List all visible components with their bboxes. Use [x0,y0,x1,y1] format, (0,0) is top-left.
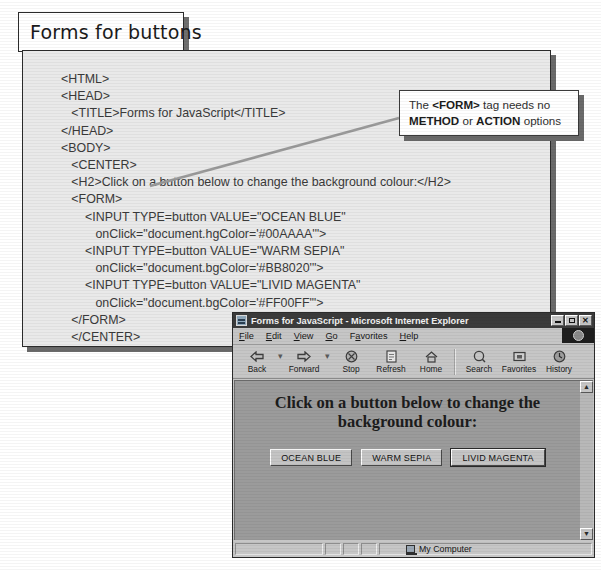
toolbar-label-refresh: Refresh [376,364,405,374]
code-line: <H2>Click on a button below to change th… [61,174,451,191]
toolbar-label-back: Back [248,364,267,374]
page-button-row: OCEAN BLUE WARM SEPIA LIVID MAGENTA [235,449,580,466]
browser-window: Forms for JavaScript - Microsoft Interne… [232,312,595,558]
toolbar-button-favorites[interactable]: Favorites [499,350,539,374]
code-listing: <HTML><HEAD> <TITLE>Forms for JavaScript… [61,71,451,347]
home-icon [425,350,438,364]
toolbar-label-search: Search [466,364,493,374]
search-icon [473,350,486,364]
callout-line-2: METHOD or ACTION options [409,113,570,129]
menu-label-favorites: vorites [360,331,387,341]
menu-item-favorites[interactable]: Favorites [350,331,388,341]
callout-line-1: The <FORM> tag needs no [409,97,570,113]
menu-accel-go: G [325,331,332,341]
toolbar-label-favorites: Favorites [502,364,536,374]
ie-document-icon [236,315,247,326]
page-heading: Click on a button below to change the ba… [235,393,580,431]
toolbar-button-forward[interactable]: Forward [284,350,324,374]
toolbar-button-home[interactable]: Home [411,350,451,374]
toolbar-button-stop[interactable]: Stop [331,350,371,374]
page-button-warm-sepia[interactable]: WARM SEPIA [361,449,442,466]
scrollbar-up-arrow-icon[interactable]: ▲ [580,381,593,393]
code-line: onClick="document.bgColor='#FF00FF'"> [61,295,451,312]
callout-options-text: options [520,114,561,127]
close-icon: ✕ [582,316,589,325]
refresh-icon [386,350,397,364]
menu-item-edit[interactable]: Edit [266,331,282,341]
figure-title-banner: Forms for buttons [18,12,184,52]
menu-item-view[interactable]: View [294,331,314,341]
menu-label-edit: dit [272,331,282,341]
titlebar-button-group: ✕ [551,315,592,326]
code-line: <HTML> [61,71,451,88]
browser-statusbar: My Computer [233,541,594,557]
toolbar-button-search[interactable]: Search [459,350,499,374]
code-line: <FORM> [61,191,451,208]
toolbar-button-refresh[interactable]: Refresh [371,350,411,374]
browser-viewport: Click on a button below to change the ba… [234,380,593,540]
toolbar-button-history[interactable]: History [539,350,579,374]
globe-icon [573,330,584,341]
statusbar-security-zone: My Computer [379,543,592,555]
code-line: <HEAD> [61,88,451,105]
code-line: onClick="document.bgColor='#BB8020'"> [61,260,451,277]
code-line: <CENTER> [61,157,451,174]
statusbar-cell-b [343,543,359,555]
code-line: <TITLE>Forms for JavaScript</TITLE> [61,105,451,122]
scrollbar-down-arrow-icon[interactable]: ▼ [580,528,593,540]
maximize-button[interactable] [565,315,578,326]
vertical-scrollbar[interactable]: ▲ ▼ [580,381,593,540]
menu-item-file[interactable]: File [239,331,254,341]
menu-label-help: elp [406,331,418,341]
browser-menubar: File Edit View Go Favorites Help [233,328,594,345]
browser-toolbar: Back ▾ Forward ▾ Stop Refresh Home [233,345,594,379]
toolbar-divider [454,349,456,375]
callout-form-tag: <FORM> [432,98,480,111]
toolbar-dropdown-dot-back[interactable]: ▾ [277,351,284,373]
toolbar-label-history: History [546,364,572,374]
page-heading-line-2: background colour: [253,412,562,431]
toolbar-label-forward: Forward [289,364,320,374]
back-arrow-icon [250,350,264,364]
page-content: Click on a button below to change the ba… [235,381,580,540]
toolbar-label-home: Home [420,364,442,374]
code-line: <INPUT TYPE=button VALUE="LIVID MAGENTA" [61,277,451,294]
callout-text-post: tag needs no [480,98,550,111]
window-title: Forms for JavaScript - Microsoft Interne… [251,316,551,326]
statusbar-message-cell [235,543,323,555]
menu-item-help[interactable]: Help [400,331,419,341]
forward-arrow-icon [297,350,311,364]
code-line: </HEAD> [61,123,451,140]
favorites-icon [513,350,526,364]
callout-action-keyword: ACTION [476,114,520,127]
callout-conjunction: or [459,114,476,127]
menu-label-view: iew [300,331,314,341]
menu-label-go: o [333,331,338,341]
page-button-ocean-blue[interactable]: OCEAN BLUE [270,449,352,466]
statusbar-cell-c [361,543,377,555]
figure-title-label: Forms for buttons [30,21,202,43]
statusbar-cell-a [325,543,341,555]
my-computer-icon [406,545,415,553]
code-line: <INPUT TYPE=button VALUE="WARM SEPIA" [61,243,451,260]
code-line: <BODY> [61,140,451,157]
code-line: onClick="document.hgColor='#00AAAA'"> [61,226,451,243]
toolbar-button-back[interactable]: Back [237,350,277,374]
page-heading-line-1: Click on a button below to change the [253,393,562,412]
ie-animated-logo [562,328,594,343]
close-button[interactable]: ✕ [579,315,592,326]
toolbar-dropdown-dot-forward[interactable]: ▾ [324,351,331,373]
stop-icon [345,350,358,364]
menu-label-file: ile [245,331,254,341]
browser-titlebar[interactable]: Forms for JavaScript - Microsoft Interne… [233,313,594,328]
callout-method-keyword: METHOD [409,114,459,127]
page-button-livid-magenta[interactable]: LIVID MAGENTA [451,449,544,466]
callout-box: The <FORM> tag needs no METHOD or ACTION… [399,90,579,136]
code-line: <INPUT TYPE=button VALUE="OCEAN BLUE" [61,209,451,226]
menu-item-go[interactable]: Go [325,331,337,341]
statusbar-zone-label: My Computer [419,544,472,554]
history-icon [553,350,566,364]
toolbar-label-stop: Stop [342,364,359,374]
callout-text-pre: The [409,98,432,111]
minimize-button[interactable] [551,315,564,326]
